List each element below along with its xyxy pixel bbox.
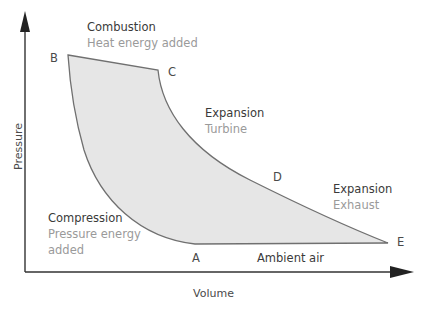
pv-diagram: Pressure Volume B C D E A Combustion Hea… <box>0 0 427 314</box>
combustion-title: Combustion <box>87 22 156 34</box>
expansion-exhaust-subtitle: Exhaust <box>333 200 379 212</box>
compression-subtitle-line1: Pressure energy <box>48 229 141 241</box>
point-d-label: D <box>273 172 282 184</box>
compression-title: Compression <box>48 213 123 225</box>
point-e-label: E <box>397 237 404 249</box>
expansion-exhaust-title: Expansion <box>333 184 392 196</box>
point-c-label: C <box>168 67 176 79</box>
expansion-turbine-subtitle: Turbine <box>205 124 247 136</box>
point-b-label: B <box>50 53 58 65</box>
y-axis-label: Pressure <box>13 123 24 170</box>
point-a-label: A <box>192 253 200 265</box>
x-axis-label: Volume <box>193 288 234 299</box>
ambient-air-label: Ambient air <box>257 253 324 265</box>
expansion-turbine-title: Expansion <box>205 108 264 120</box>
x-axis-arrow-icon <box>390 266 414 278</box>
y-axis-arrow-icon <box>20 11 30 32</box>
compression-subtitle-line2: added <box>48 245 84 257</box>
diagram-graphic <box>0 0 427 314</box>
combustion-subtitle: Heat energy added <box>87 38 198 50</box>
